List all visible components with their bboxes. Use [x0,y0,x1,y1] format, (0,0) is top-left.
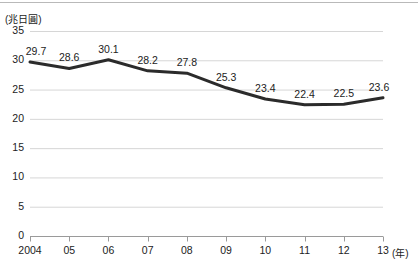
x-axis-tick-label: 09 [220,244,232,256]
data-point-label: 23.4 [255,82,275,94]
x-axis-unit-label: (年) [392,245,409,260]
y-axis-tick-label: 20 [0,112,24,124]
y-axis-tick-label: 0 [0,229,24,241]
data-point-label: 22.5 [334,87,354,99]
x-axis-tick-label: 2004 [18,244,41,256]
x-axis-tick-label: 06 [103,244,115,256]
data-point-label: 28.2 [137,54,157,66]
x-axis-tick-label: 10 [259,244,271,256]
x-axis-tick-label: 11 [299,244,310,256]
data-point-label: 27.8 [177,56,197,68]
x-axis-ticks [31,237,384,242]
y-axis-tick-label: 10 [0,170,24,182]
data-series-line [30,60,383,105]
y-axis-tick-label: 35 [0,24,24,36]
y-axis-tick-label: 25 [0,83,24,95]
plot-area [0,0,418,267]
data-point-label: 29.7 [26,45,46,57]
line-chart: (兆日圓) 05101520253035 2004050607080910111… [0,0,418,267]
x-axis-tick-label: 08 [181,244,193,256]
x-axis-tick-label: 07 [142,244,154,256]
data-point-label: 22.4 [294,88,314,100]
data-point-label: 28.6 [59,51,79,63]
y-axis-tick-label: 15 [0,141,24,153]
x-axis-tick-label: 05 [63,244,75,256]
data-point-label: 23.6 [369,81,389,93]
data-point-label: 30.1 [98,43,118,55]
data-point-label: 25.3 [216,71,236,83]
x-axis-tick-label: 13 [377,244,389,256]
y-axis-tick-label: 5 [0,200,24,212]
gridlines [30,32,383,208]
y-axis-tick-label: 30 [0,53,24,65]
x-axis-tick-label: 12 [338,244,350,256]
